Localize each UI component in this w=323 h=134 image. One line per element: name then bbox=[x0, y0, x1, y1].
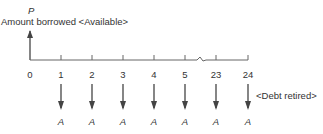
payment-symbol: A bbox=[212, 116, 219, 127]
payment-symbol: A bbox=[119, 116, 126, 127]
arrow-down-head-icon bbox=[245, 101, 251, 110]
payment-symbol: A bbox=[88, 116, 95, 127]
payment-symbol: A bbox=[57, 116, 64, 127]
arrow-down-head-icon bbox=[151, 101, 157, 110]
arrow-down-head-icon bbox=[120, 101, 126, 110]
period-label: 23 bbox=[211, 69, 222, 80]
payment-symbol: A bbox=[181, 116, 188, 127]
payment-arrowheads bbox=[58, 101, 251, 110]
time-axis bbox=[30, 55, 248, 61]
amount-borrowed-label: Amount borrowed <Available> bbox=[1, 16, 129, 27]
arrow-down-head-icon bbox=[213, 101, 219, 110]
period-label: 24 bbox=[243, 69, 254, 80]
period-label: 0 bbox=[27, 69, 32, 80]
debt-retired-label: <Debt retired> bbox=[256, 90, 317, 101]
period-label: 1 bbox=[58, 69, 63, 80]
payment-symbol: A bbox=[244, 116, 251, 127]
period-label: 2 bbox=[89, 69, 94, 80]
arrow-down-head-icon bbox=[89, 101, 95, 110]
payment-symbol: A bbox=[150, 116, 157, 127]
period-label: 5 bbox=[182, 69, 187, 80]
period-label: 3 bbox=[120, 69, 125, 80]
payment-labels: A A A A A A A bbox=[57, 116, 251, 127]
arrow-up-head-icon bbox=[27, 30, 33, 38]
cash-flow-diagram: P Amount borrowed <Available> 0 1 2 3 4 … bbox=[0, 0, 323, 134]
arrow-down-head-icon bbox=[58, 101, 64, 110]
arrow-down-head-icon bbox=[182, 101, 188, 110]
period-label: 4 bbox=[151, 69, 156, 80]
principal-symbol: P bbox=[28, 5, 35, 16]
period-labels: 0 1 2 3 4 5 23 24 bbox=[27, 69, 253, 80]
